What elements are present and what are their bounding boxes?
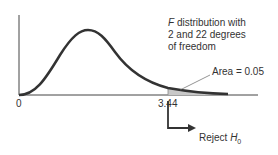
area-pointer (180, 75, 210, 90)
arrow-head (188, 124, 196, 132)
chart-title: F distribution with 2 and 22 degrees of … (168, 17, 246, 53)
x-tick-critical: 3.44 (158, 98, 177, 110)
reject-label: Reject H0 (199, 132, 241, 148)
x-tick-zero: 0 (16, 98, 22, 110)
area-label: Area = 0.05 (212, 66, 264, 78)
